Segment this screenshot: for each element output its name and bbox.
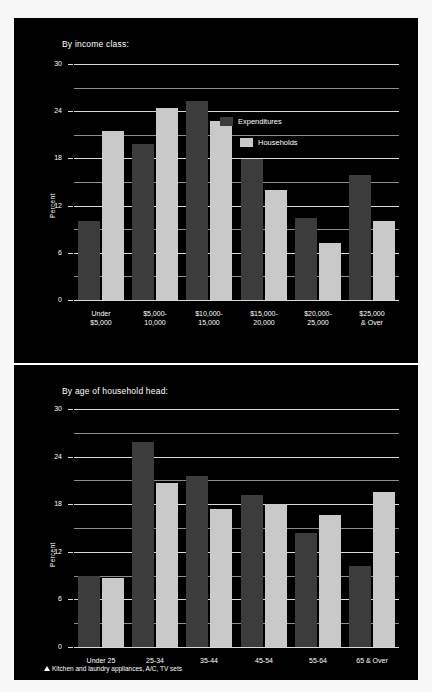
y-tick-mark [68,158,73,159]
gridline-major [74,504,399,505]
y-tick-label: 30 [40,60,62,67]
gridline-minor [74,88,399,89]
bar-expenditures-1 [132,144,154,300]
axis-baseline [74,300,399,301]
chart-2-title: By age of household head: [62,386,168,396]
bar-households-4 [319,243,341,300]
y-tick-label: 6 [40,595,62,602]
bar-households-2 [210,509,232,647]
gridline-major [74,64,399,65]
gridline-minor [74,480,399,481]
bar-expenditures-3 [241,159,263,300]
y-tick-mark [68,599,73,600]
x-tick-label: $25,000 & Over [332,309,412,327]
y-tick-mark [68,457,73,458]
x-tick-label: 65 & Over [332,656,412,665]
bar-expenditures-4 [295,218,317,300]
bar-households-5 [373,492,395,647]
y-tick-label: 24 [40,453,62,460]
legend-label-expenditures: Expenditures [238,117,282,126]
gridline-minor [74,433,399,434]
chart-panel-age-of-household-head: By age of household head: 0612182430Unde… [14,365,418,682]
y-tick-mark [68,64,73,65]
y-tick-mark [68,552,73,553]
bar-households-3 [265,190,287,300]
chart-1-plot-area: 0612182430Under $5,000$5,000- 10,000$10,… [74,64,399,300]
y-tick-label: 18 [40,500,62,507]
bar-expenditures-5 [349,566,371,647]
bar-households-0 [102,131,124,300]
y-tick-label: 24 [40,107,62,114]
bar-expenditures-0 [78,221,100,300]
bar-expenditures-4 [295,533,317,647]
legend-swatch-households [240,138,253,147]
bar-expenditures-0 [78,576,100,647]
triangle-marker-icon [44,666,50,671]
y-tick-mark [68,111,73,112]
y-tick-mark [68,647,73,648]
bar-households-5 [373,221,395,300]
gridline-minor [74,528,399,529]
bar-households-0 [102,578,124,647]
figure-sheet: By income class: 0612182430Under $5,000$… [14,18,418,680]
legend-swatch-expenditures [220,117,233,126]
bar-expenditures-5 [349,175,371,300]
bar-households-2 [210,121,232,300]
y-tick-mark [68,504,73,505]
bar-households-4 [319,515,341,647]
figure-page: By income class: 0612182430Under $5,000$… [0,0,432,692]
y-tick-label: 30 [40,405,62,412]
y-tick-mark [68,300,73,301]
y-tick-mark [68,253,73,254]
gridline-major [74,457,399,458]
gridline-major [74,111,399,112]
bar-expenditures-2 [186,101,208,300]
figure-footnote: Kitchen and laundry appliances, A/C, TV … [44,665,182,672]
bar-households-1 [156,108,178,300]
y-tick-mark [68,206,73,207]
y-tick-label: 6 [40,249,62,256]
chart-panel-income-class: By income class: 0612182430Under $5,000$… [14,18,418,363]
legend-label-households: Households [258,138,298,147]
footnote-text: Kitchen and laundry appliances, A/C, TV … [52,665,182,672]
gridline-major [74,552,399,553]
y-tick-label: 0 [40,296,62,303]
y-tick-label: 0 [40,643,62,650]
legend-item-households: Households [240,138,298,147]
chart-1-y-axis-title: Percent [49,193,56,218]
bar-households-3 [265,504,287,647]
bar-expenditures-2 [186,476,208,647]
bar-expenditures-3 [241,495,263,647]
chart-2-y-axis-title: Percent [49,542,56,567]
axis-baseline [74,647,399,648]
chart-2-plot-area: 0612182430Under 2525-3435-4445-5455-6465… [74,409,399,647]
y-tick-mark [68,409,73,410]
chart-1-title: By income class: [62,39,129,49]
legend-item-expenditures: Expenditures [220,117,282,126]
bar-households-1 [156,483,178,647]
gridline-major [74,409,399,410]
bar-expenditures-1 [132,442,154,647]
y-tick-label: 18 [40,154,62,161]
